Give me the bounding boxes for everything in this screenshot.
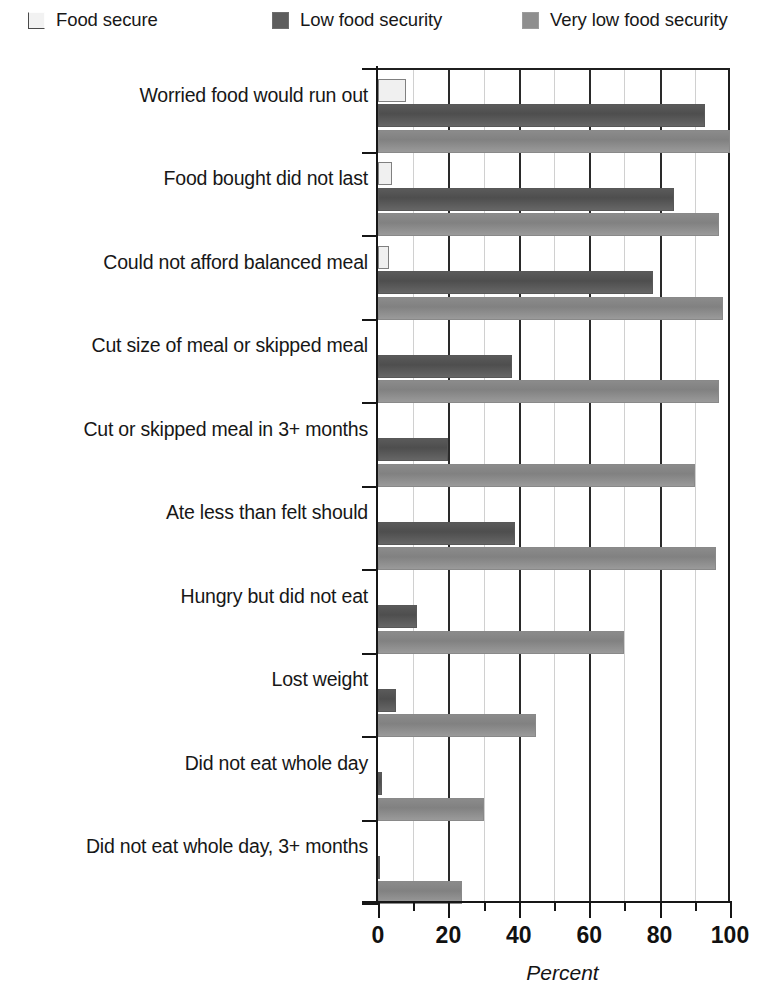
x-axis-title-text: Percent	[526, 961, 598, 984]
x-axis-tick-label-60: 60	[576, 922, 602, 949]
y-axis-tick-8	[362, 736, 377, 738]
y-axis-tick-9	[362, 820, 377, 822]
category-label-6: Hungry but did not eat	[0, 584, 368, 607]
bar-4-2	[378, 464, 695, 487]
x-axis-tick-label-80: 80	[647, 922, 673, 949]
gridline-minor-90	[695, 70, 696, 903]
very-low-food-security-swatch-icon	[522, 12, 539, 29]
low-food-security-swatch-icon	[272, 12, 289, 29]
bar-2-1	[378, 271, 653, 294]
category-label-text: Did not eat whole day	[185, 751, 368, 773]
category-label-text: Lost weight	[272, 668, 368, 690]
x-axis-major-tick-60	[589, 903, 591, 918]
category-label-text: Did not eat whole day, 3+ months	[86, 835, 368, 857]
bar-3-1	[378, 355, 512, 378]
bar-5-1	[378, 522, 515, 545]
bar-6-2	[378, 631, 624, 654]
x-axis-major-tick-80	[660, 903, 662, 918]
y-axis-tick-10	[362, 903, 377, 905]
bar-2-2	[378, 297, 723, 320]
bar-7-2	[378, 714, 536, 737]
x-axis-major-tick-100	[730, 903, 732, 918]
bar-5-2	[378, 547, 716, 570]
category-label-text: Could not afford balanced meal	[103, 250, 368, 272]
legend-label-low-food-security: Low food security	[300, 9, 442, 31]
bar-3-2	[378, 380, 719, 403]
bar-6-1	[378, 605, 417, 628]
bar-9-1	[378, 856, 380, 879]
x-axis-tick-label-20: 20	[436, 922, 462, 949]
y-axis-tick-4	[362, 402, 377, 404]
legend-label-very-low-food-security: Very low food security	[550, 9, 728, 31]
food-secure-swatch-icon	[28, 12, 45, 29]
legend-label-food-secure: Food secure	[56, 9, 158, 31]
bar-0-1	[378, 104, 705, 127]
y-axis-tick-7	[362, 653, 377, 655]
x-axis-minor-tick-10	[413, 903, 415, 911]
y-axis-tick-6	[362, 569, 377, 571]
category-label-text: Food bought did not last	[164, 167, 368, 189]
bar-4-1	[378, 438, 448, 461]
x-axis-line	[362, 901, 732, 903]
bar-1-2	[378, 213, 719, 236]
y-axis-tick-0	[362, 68, 377, 70]
legend-entry-low-food-security: Low food security	[272, 9, 442, 31]
bar-0-0	[378, 79, 406, 102]
bar-1-1	[378, 188, 674, 211]
category-label-text: Cut or skipped meal in 3+ months	[83, 417, 368, 439]
y-axis-tick-5	[362, 486, 377, 488]
category-label-9: Did not eat whole day, 3+ months	[0, 835, 368, 858]
category-label-1: Food bought did not last	[0, 167, 368, 190]
bar-1-0	[378, 162, 392, 185]
category-label-7: Lost weight	[0, 668, 368, 691]
bar-8-1	[378, 772, 382, 795]
category-label-4: Cut or skipped meal in 3+ months	[0, 417, 368, 440]
category-label-5: Ate less than felt should	[0, 501, 368, 524]
bar-8-2	[378, 798, 484, 821]
x-axis-major-tick-0	[378, 903, 380, 918]
x-axis-tick-label-40: 40	[506, 922, 532, 949]
category-label-text: Hungry but did not eat	[181, 584, 368, 606]
x-axis-minor-tick-70	[624, 903, 626, 911]
bar-7-1	[378, 689, 396, 712]
category-label-text: Cut size of meal or skipped meal	[92, 334, 368, 356]
bar-0-2	[378, 130, 730, 153]
x-axis-tick-label-100: 100	[711, 922, 749, 949]
x-axis-minor-tick-90	[695, 903, 697, 911]
x-axis-major-tick-20	[448, 903, 450, 918]
bar-chart: Worried food would run outFood bought di…	[0, 46, 773, 1001]
x-axis-major-tick-40	[519, 903, 521, 918]
y-axis-tick-3	[362, 319, 377, 321]
x-axis-minor-tick-50	[554, 903, 556, 911]
x-axis-minor-tick-30	[484, 903, 486, 911]
bar-2-0	[378, 246, 389, 269]
category-label-text: Worried food would run out	[139, 83, 368, 105]
plot-area	[378, 68, 730, 903]
category-label-2: Could not afford balanced meal	[0, 250, 368, 273]
x-axis-title: Percent	[0, 961, 773, 985]
legend-entry-very-low-food-security: Very low food security	[522, 9, 728, 31]
x-axis-tick-label-0: 0	[372, 922, 385, 949]
chart-legend: Food secure Low food security Very low f…	[0, 0, 773, 46]
y-axis-tick-1	[362, 152, 377, 154]
legend-entry-food-secure: Food secure	[28, 9, 158, 31]
category-label-0: Worried food would run out	[0, 83, 368, 106]
category-label-3: Cut size of meal or skipped meal	[0, 334, 368, 357]
y-axis-tick-2	[362, 235, 377, 237]
category-label-text: Ate less than felt should	[166, 501, 368, 523]
category-label-8: Did not eat whole day	[0, 751, 368, 774]
